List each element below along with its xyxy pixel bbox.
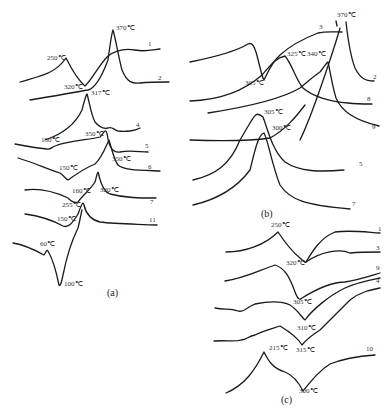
curve-a-7 [25, 172, 156, 202]
curve-c-1 [226, 231, 380, 262]
label-160: 160℃ [72, 187, 91, 195]
label-b-300: 300℃ [272, 124, 291, 132]
label-60: 60℃ [40, 240, 55, 248]
panel-label-b: (b) [261, 208, 273, 220]
label-c-310: 310℃ [297, 324, 316, 332]
label-320-b: 320℃ [100, 186, 119, 194]
label-c-215: 215℃ [269, 344, 288, 352]
curve-a-1 [20, 49, 160, 86]
curve-b-2-tick [336, 21, 337, 26]
label-250: 250℃ [47, 54, 66, 62]
label-c-300: 300℃ [299, 387, 318, 395]
series-label-b-7: 7 [352, 200, 356, 208]
label-b-340: 340℃ [307, 50, 326, 58]
series-label-c-1: 1 [378, 225, 382, 233]
panel-a: 370℃ 250℃ 320℃ 317℃ 350℃ 150℃ 150℃ 350℃ … [13, 24, 169, 299]
series-label-a-6: 6 [148, 163, 152, 171]
curve-a-6 [18, 140, 160, 180]
panel-c: 250℃ 320℃ 305℃ 310℃ 315℃ 215℃ 300℃ 1 3 9… [214, 221, 382, 406]
series-label-b-3: 3 [319, 23, 323, 31]
panel-label-c: (c) [281, 394, 292, 406]
label-320: 320℃ [64, 83, 83, 91]
label-317: 317℃ [91, 89, 110, 97]
label-255: 255℃ [62, 201, 81, 209]
curve-a-5 [15, 131, 148, 152]
series-label-b-8: 8 [367, 95, 371, 103]
label-150-c: 150℃ [57, 215, 76, 223]
curve-b-steep [300, 28, 340, 140]
label-c-250: 250℃ [271, 221, 290, 229]
label-b-370: 370℃ [337, 11, 356, 19]
series-label-a-11: 11 [149, 216, 156, 224]
label-b-305-a: 305℃ [245, 79, 264, 87]
series-label-a-7: 7 [150, 198, 154, 206]
panel-b: 370℃ 325℃ 340℃ 305℃ 305℃ 300℃ 3 2 8 9 5 … [190, 11, 379, 220]
curve-b-2 [346, 22, 374, 81]
curve-a-11 [25, 203, 157, 226]
panel-label-a: (a) [107, 287, 118, 299]
curve-c-9 [225, 265, 380, 299]
series-label-c-3: 3 [376, 244, 380, 252]
series-label-c-9: 9 [376, 264, 380, 272]
series-label-a-4: 4 [136, 121, 140, 129]
dsc-figure: 370℃ 250℃ 320℃ 317℃ 350℃ 150℃ 150℃ 350℃ … [0, 0, 391, 414]
label-c-305: 305℃ [293, 298, 312, 306]
series-label-c-10: 10 [366, 345, 374, 353]
series-label-a-5: 5 [145, 142, 149, 150]
series-label-a-2: 2 [158, 74, 162, 82]
series-label-c-4: 4 [376, 277, 380, 285]
label-150-a: 150℃ [41, 136, 60, 144]
series-label-a-1: 1 [148, 40, 152, 48]
series-label-b-2: 2 [373, 73, 377, 81]
curve-c-3 [306, 251, 380, 262]
series-label-b-5: 5 [359, 160, 363, 168]
label-c-320: 320℃ [286, 259, 305, 267]
label-370: 370℃ [116, 24, 135, 32]
label-350-c: 350℃ [112, 155, 131, 163]
label-100: 100℃ [64, 280, 83, 288]
label-b-325: 325℃ [287, 50, 306, 58]
series-label-b-9: 9 [372, 123, 376, 131]
curve-b-horizontal [190, 105, 305, 141]
label-b-305-b: 305℃ [264, 108, 283, 116]
label-c-315: 315℃ [296, 346, 315, 354]
label-350-a: 350℃ [85, 130, 104, 138]
label-150-b: 150℃ [59, 164, 78, 172]
